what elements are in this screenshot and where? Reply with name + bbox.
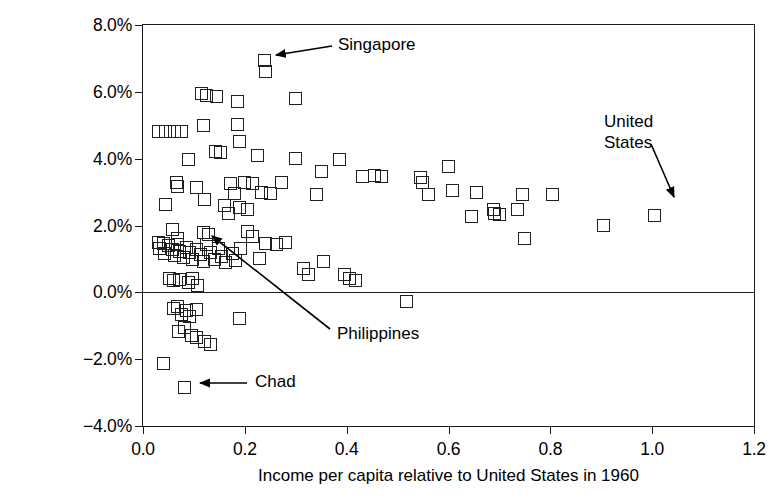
y-axis-tick (135, 226, 143, 227)
data-point-marker (302, 268, 315, 281)
data-point-marker (470, 186, 483, 199)
data-point-marker (289, 92, 302, 105)
data-point-marker (178, 381, 191, 394)
data-point-marker (511, 203, 524, 216)
data-point-marker (400, 295, 413, 308)
data-point-marker (191, 279, 204, 292)
x-axis-tick-label: 0.4 (335, 438, 359, 460)
data-point-marker (182, 153, 195, 166)
y-axis-tick-label: −4.0% (83, 415, 132, 437)
data-point-marker (442, 160, 455, 173)
data-point-marker (253, 252, 266, 265)
data-point-marker (333, 153, 346, 166)
y-axis-tick (135, 292, 143, 293)
data-point-marker (516, 188, 529, 201)
data-point-marker (210, 90, 223, 103)
data-point-marker (231, 95, 244, 108)
x-axis-tick (143, 426, 144, 434)
data-point-marker (222, 207, 235, 220)
data-point-marker (234, 242, 247, 255)
data-point-marker (204, 338, 217, 351)
data-point-marker (259, 65, 272, 78)
data-point-marker (198, 193, 211, 206)
x-axis-tick-label: 0.8 (538, 438, 562, 460)
data-point-marker (171, 232, 184, 245)
y-axis-tick-label: −2.0% (83, 348, 132, 370)
scatter-plot-figure: Average annual growth in income per capi… (0, 0, 780, 504)
data-point-marker (465, 210, 478, 223)
x-axis-tick (449, 426, 450, 434)
data-point-marker (214, 146, 227, 159)
y-axis-tick (135, 359, 143, 360)
data-point-marker (597, 219, 610, 232)
data-point-marker (197, 119, 210, 132)
data-point-marker (264, 187, 277, 200)
x-axis-tick-label: 0.0 (131, 438, 155, 460)
data-point-marker (233, 135, 246, 148)
data-point-marker (246, 230, 259, 243)
data-point-marker (546, 188, 559, 201)
data-point-marker (315, 165, 328, 178)
zero-reference-line (143, 292, 754, 293)
data-point-marker (241, 203, 254, 216)
annotation-chad: Chad (255, 371, 296, 392)
data-point-marker (202, 228, 215, 241)
x-axis-tick-label: 1.2 (742, 438, 766, 460)
y-axis-tick-label: 0.0% (93, 281, 132, 303)
data-point-marker (175, 125, 188, 138)
data-point-marker (648, 209, 661, 222)
data-point-marker (349, 274, 362, 287)
annotation-united-states: United States (604, 111, 653, 153)
x-axis-tick (652, 426, 653, 434)
data-point-marker (251, 149, 264, 162)
x-axis-tick (550, 426, 551, 434)
data-point-marker (310, 188, 323, 201)
data-point-marker (518, 232, 531, 245)
x-axis-tick (754, 426, 755, 434)
data-point-marker (446, 184, 459, 197)
data-point-marker (190, 303, 203, 316)
x-axis-tick-label: 0.6 (437, 438, 461, 460)
y-axis-tick-label: 4.0% (93, 148, 132, 170)
plot-frame: 8.0%6.0%4.0%2.0%0.0%−2.0%−4.0%0.00.20.40… (142, 24, 755, 427)
x-axis-tick (347, 426, 348, 434)
data-point-marker (375, 170, 388, 183)
y-axis-tick-label: 2.0% (93, 215, 132, 237)
data-point-marker (229, 254, 242, 267)
y-axis-tick-label: 6.0% (93, 81, 132, 103)
data-point-marker (159, 198, 172, 211)
y-axis-tick (135, 92, 143, 93)
x-axis-tick (245, 426, 246, 434)
data-point-marker (275, 176, 288, 189)
data-point-marker (289, 152, 302, 165)
data-point-marker (171, 180, 184, 193)
x-axis-tick-label: 1.0 (640, 438, 664, 460)
data-point-marker (233, 312, 246, 325)
data-point-marker (190, 181, 203, 194)
x-axis-tick-label: 0.2 (233, 438, 257, 460)
data-point-marker (422, 188, 435, 201)
x-axis-title: Income per capita relative to United Sta… (142, 466, 755, 486)
y-axis-tick-label: 8.0% (93, 14, 132, 36)
y-axis-tick (135, 159, 143, 160)
y-axis-tick (135, 25, 143, 26)
y-axis-tick (135, 426, 143, 427)
data-point-marker (157, 357, 170, 370)
plot-area (143, 25, 754, 426)
data-point-marker (493, 208, 506, 221)
annotation-singapore: Singapore (338, 34, 416, 55)
data-point-marker (231, 118, 244, 131)
data-point-marker (279, 236, 292, 249)
annotation-philippines: Philippines (337, 323, 419, 344)
data-point-marker (317, 255, 330, 268)
